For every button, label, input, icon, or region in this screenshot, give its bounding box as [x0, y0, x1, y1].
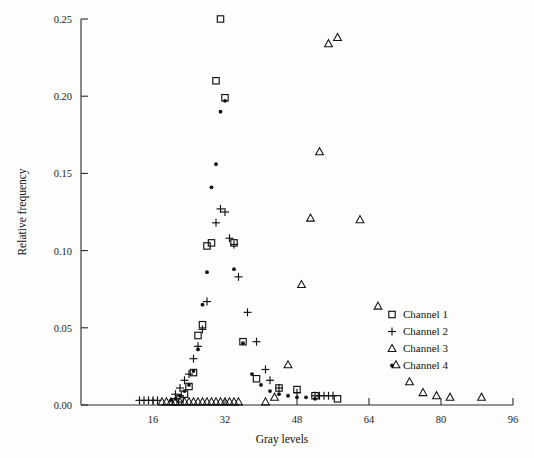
x-tick-label: 64: [364, 414, 375, 425]
data-point: [329, 392, 337, 400]
data-point: [210, 185, 214, 189]
x-tick-label: 16: [148, 414, 159, 425]
data-point: [187, 383, 191, 387]
data-point: [212, 219, 220, 227]
legend-marker-plus: [388, 328, 396, 336]
data-point: [406, 378, 414, 385]
data-point: [219, 110, 223, 114]
legend-label: Channel 1: [403, 308, 448, 320]
x-tick-label: 32: [220, 414, 231, 425]
data-point: [213, 78, 219, 84]
data-point: [226, 234, 234, 242]
axes: 0.000.050.100.150.200.25163248648096: [54, 14, 519, 425]
data-point: [250, 372, 254, 376]
data-point: [266, 376, 274, 384]
data-point: [196, 348, 200, 352]
data-point: [316, 148, 324, 155]
data-point: [178, 394, 182, 398]
data-point: [419, 389, 427, 396]
data-point: [277, 392, 281, 396]
data-point: [356, 216, 364, 223]
data-point: [268, 389, 272, 393]
data-point: [183, 389, 187, 393]
legend-label: Channel 2: [403, 325, 448, 337]
x-axis-title: Gray levels: [256, 433, 309, 446]
data-point: [174, 397, 178, 401]
data-point: [169, 398, 173, 402]
data-point: [325, 40, 333, 47]
data-point: [217, 16, 223, 22]
data-point: [374, 302, 382, 309]
scatter-plot-figure: 0.000.050.100.150.200.25163248648096 Gra…: [0, 0, 534, 458]
plot-canvas: 0.000.050.100.150.200.25163248648096 Gra…: [0, 0, 534, 458]
y-tick-label: 0.15: [54, 168, 72, 179]
y-tick-label: 0.05: [54, 323, 72, 334]
data-point: [195, 332, 201, 338]
data-point: [190, 355, 198, 363]
data-point: [286, 394, 290, 398]
legend-label: Channel 4: [403, 359, 448, 371]
data-point: [262, 398, 270, 405]
data-point: [298, 280, 306, 287]
series-channel-2: [136, 205, 338, 404]
y-tick-label: 0.10: [54, 246, 72, 257]
legend-marker-square: [389, 311, 395, 317]
data-point: [307, 214, 315, 221]
data-point: [235, 273, 243, 281]
data-point: [334, 33, 342, 40]
data-point: [223, 99, 227, 103]
data-point: [284, 361, 292, 368]
data-point: [214, 162, 218, 166]
data-point: [262, 365, 270, 373]
data-point: [192, 369, 196, 373]
y-tick-label: 0.20: [54, 91, 72, 102]
legend: Channel 1Channel 2Channel 3Channel 4: [388, 308, 448, 371]
data-point: [244, 308, 252, 316]
data-point: [334, 396, 340, 402]
x-tick-label: 96: [508, 414, 519, 425]
data-point: [304, 395, 308, 399]
data-point: [478, 393, 486, 400]
data-point: [446, 393, 454, 400]
data-point: [205, 270, 209, 274]
x-tick-label: 80: [436, 414, 447, 425]
data-point: [313, 397, 317, 401]
y-tick-label: 0.00: [54, 400, 72, 411]
y-tick-label: 0.25: [54, 14, 72, 25]
data-point: [253, 376, 259, 382]
data-point: [259, 383, 263, 387]
data-point: [253, 338, 261, 346]
legend-marker-triangle: [388, 344, 396, 351]
legend-label: Channel 3: [403, 342, 448, 354]
y-axis-title: Relative frequency: [16, 168, 29, 255]
legend-marker-dot: [390, 364, 394, 368]
series-channel-4: [169, 99, 317, 402]
data-point: [295, 395, 299, 399]
data-point: [241, 341, 245, 345]
data-point: [433, 392, 441, 399]
data-point: [201, 303, 205, 307]
x-tick-label: 48: [292, 414, 303, 425]
data-point: [232, 267, 236, 271]
